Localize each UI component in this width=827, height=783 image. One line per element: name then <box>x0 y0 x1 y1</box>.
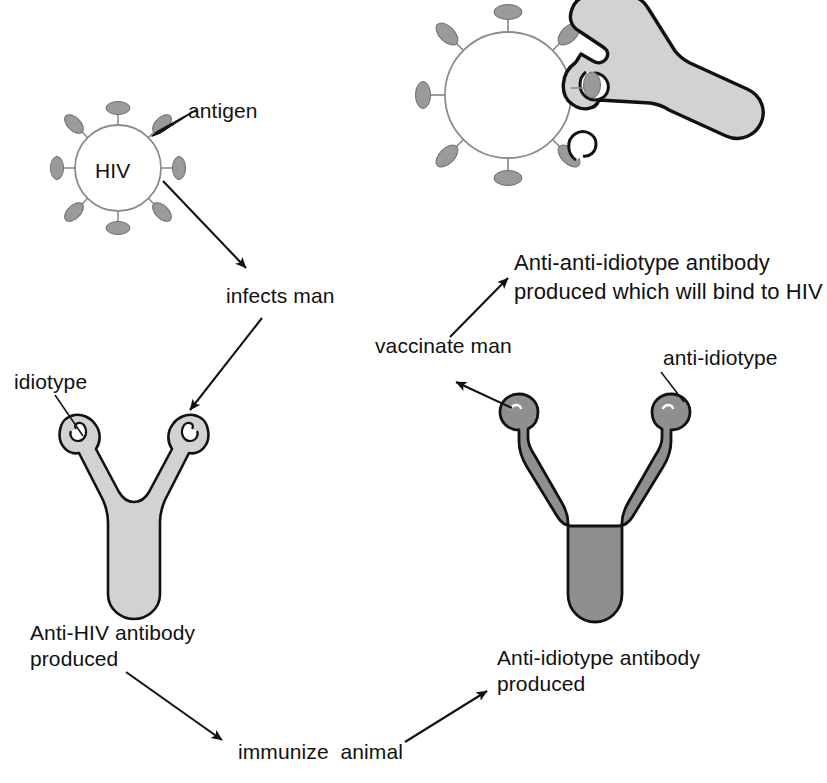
label-hiv-core: HIV <box>95 158 130 184</box>
diagram-canvas: antigen HIV infects man idiotype Anti-HI… <box>0 0 827 783</box>
arrow-immunize-to-anti-idiotype <box>405 691 487 742</box>
label-vaccinate-man: vaccinate man <box>375 333 512 359</box>
antigen-in-binding-site <box>584 72 601 98</box>
label-anti-idiotype-antibody-produced: Anti-idiotype antibody produced <box>497 645 700 697</box>
label-anti-idiotype: anti-idiotype <box>663 345 778 371</box>
label-immunize-animal: immunize animal <box>238 739 403 765</box>
antibody-bound-body <box>563 0 763 138</box>
antibody-bound-hook-lower <box>569 132 596 160</box>
arrow-antibody-to-immunize <box>126 672 222 740</box>
label-infects-man: infects man <box>226 283 334 309</box>
hiv-envelope-bound <box>445 32 571 158</box>
arrow-hiv-to-infects-man <box>163 181 246 268</box>
antibody-anti-hiv <box>60 415 209 619</box>
label-anti-hiv-antibody-produced: Anti-HIV antibody produced <box>30 620 195 672</box>
hiv-antibody-complex <box>416 0 764 186</box>
label-anti-anti-idiotype-antibody: Anti-anti-idiotype antibody produced whi… <box>514 248 823 306</box>
label-antigen: antigen <box>188 98 258 124</box>
arrow-vaccinate-to-anti-anti-idiotype <box>450 278 508 337</box>
arrow-infects-man-to-antibody <box>190 318 262 410</box>
antibody-anti-idiotype <box>500 394 690 622</box>
arrow-anti-idiotype-to-vaccinate <box>456 382 512 408</box>
label-idiotype: idiotype <box>14 369 87 395</box>
